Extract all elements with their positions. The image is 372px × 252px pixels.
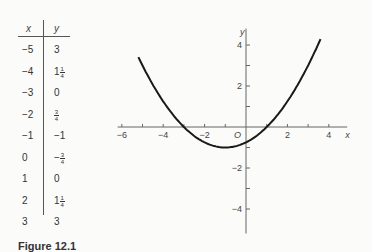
- x-tick-label: 4: [326, 130, 331, 140]
- figure-caption: Figure 12.1: [18, 240, 76, 252]
- origin-label: O: [234, 130, 241, 140]
- x-tick-label: −2: [199, 130, 209, 140]
- x-axis-label: x: [344, 130, 350, 140]
- x-tick-label: 2: [285, 130, 290, 140]
- y-tick-label: −2: [232, 163, 242, 173]
- y-tick-label: 2: [237, 81, 242, 91]
- y-tick-label: 4: [237, 40, 242, 50]
- y-axis-label: y: [239, 27, 245, 37]
- x-tick-label: −6: [117, 130, 127, 140]
- x-tick-label: −4: [158, 130, 168, 140]
- y-tick-label: −4: [232, 204, 242, 214]
